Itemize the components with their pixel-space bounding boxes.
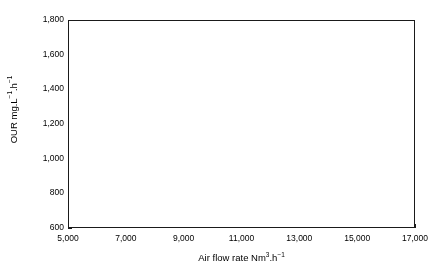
- y-axis-title: OUR mg.L−1.h−1: [8, 35, 19, 185]
- x-tick-label-15000: 15,000: [335, 234, 379, 243]
- chart-figure: 6008001,0001,2001,4001,6001,800 5,0007,0…: [0, 0, 446, 275]
- x-tick-label-11000: 11,000: [220, 234, 264, 243]
- y-axis-title-sup1: −1: [6, 91, 13, 98]
- x-tick-label-5000: 5,000: [46, 234, 90, 243]
- x-tick-label-9000: 9,000: [162, 234, 206, 243]
- x-axis-title: Air flow rate Nm3.h−1: [68, 252, 415, 263]
- y-axis-title-mid: .h: [8, 83, 19, 91]
- x-tick-label-7000: 7,000: [104, 234, 148, 243]
- x-axis-title-prefix: Air flow rate Nm: [198, 252, 266, 263]
- x-axis-title-sup2: −1: [277, 251, 284, 258]
- y-axis-title-prefix: OUR mg.L: [8, 98, 19, 143]
- x-axis-tick-labels: 5,0007,0009,00011,00013,00015,00017,000: [0, 0, 446, 275]
- y-axis-title-sup2: −1: [6, 76, 13, 83]
- x-tick-label-13000: 13,000: [277, 234, 321, 243]
- x-tick-label-17000: 17,000: [393, 234, 437, 243]
